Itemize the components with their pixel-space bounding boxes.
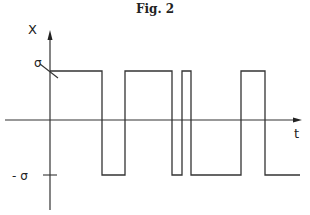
time-axis-arrow-icon	[293, 118, 302, 123]
x-axis-label: t	[294, 126, 299, 141]
y-axis-label: X	[28, 22, 37, 37]
pulse-waveform	[50, 71, 300, 175]
minus-sigma-label: - σ	[12, 169, 28, 183]
sigma-label: σ	[34, 56, 42, 70]
figure: Fig. 2 X σ - σ t	[0, 0, 310, 215]
vertical-axis-arrow-icon	[48, 30, 53, 40]
waveform-plot: X σ - σ t	[0, 0, 310, 215]
